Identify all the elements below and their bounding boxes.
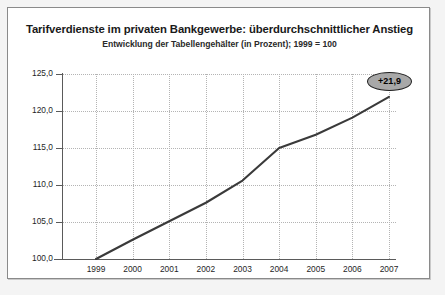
value-annotation-label: +21,9 [378, 76, 401, 86]
x-axis-tick-label: 2007 [367, 264, 411, 274]
y-axis-tick-label: 110,0 [9, 179, 53, 189]
x-axis-line [54, 259, 396, 260]
chart-title: Tarifverdienste im privaten Bankgewerbe:… [8, 23, 431, 35]
y-axis-tick-label: 115,0 [9, 142, 53, 152]
plot-area: 100,0105,0110,0115,0120,0125,0 199920002… [62, 74, 396, 259]
y-axis-tick-label: 100,0 [9, 253, 53, 263]
chart-figure: Tarifverdienste im privaten Bankgewerbe:… [0, 0, 445, 295]
y-axis-tick-label: 120,0 [9, 105, 53, 115]
y-axis-tick-label: 125,0 [9, 68, 53, 78]
y-axis-tick [56, 259, 62, 260]
y-axis-tick-label: 105,0 [9, 216, 53, 226]
value-annotation-badge: +21,9 [367, 72, 412, 91]
chart-subtitle: Entwicklung der Tabellengehälter (in Pro… [8, 39, 431, 49]
series-line [62, 74, 396, 259]
chart-frame: Tarifverdienste im privaten Bankgewerbe:… [7, 7, 430, 279]
